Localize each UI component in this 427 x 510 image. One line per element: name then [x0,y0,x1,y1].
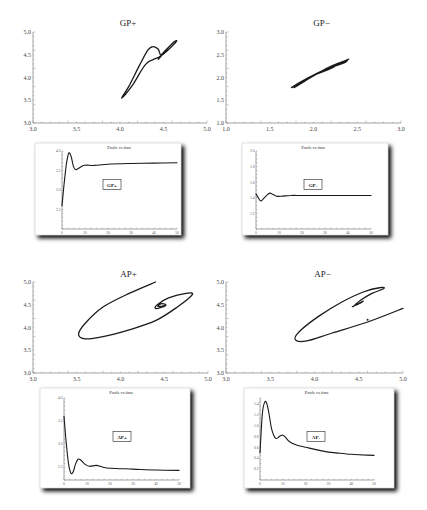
annotation-label: AP+ [117,435,127,440]
x-tick-label: 5.0 [204,376,212,382]
ap-plus-time-chart: 010203040502.53.03.54.0Pools vs timeAP+ [40,388,190,488]
series-line [79,282,193,339]
gp-plus-time-chart: 010203040502.53.03.54.0Pools vs timeGP+ [35,143,181,235]
x-tick-label: 40 [346,231,350,235]
y-tick-label: 3.0 [217,29,225,35]
x-tick-label: 0 [259,482,261,486]
x-tick-label: 30 [131,482,135,486]
y-tick-label: 4.0 [217,325,225,331]
y-tick-label: 4.0 [24,325,32,331]
x-tick-label: 30 [323,231,327,235]
x-tick-label: 4.5 [355,376,363,382]
chart-title: AP+ [120,269,137,279]
y-tick-label: 3.0 [58,442,63,446]
ap-minus-phase-chart: 3.03.54.04.55.03.03.54.04.55.0AP− [217,269,407,382]
y-tick-label: 5.0 [24,279,32,285]
y-tick-label: 4.5 [24,52,32,58]
x-tick-label: 3.0 [29,126,37,132]
y-tick-label: 1.2 [250,212,255,216]
y-tick-label: 3.0 [217,370,225,376]
x-tick-label: 2.0 [310,126,318,132]
chart-title: Pools vs time [305,390,329,395]
chart-title: GP+ [120,18,137,28]
x-tick-label: 20 [304,482,308,486]
y-tick-label: 2.5 [58,465,63,469]
y-tick-label: 4.0 [24,75,32,81]
y-tick-label: 5.0 [217,279,225,285]
y-tick-label: 3.5 [217,347,225,353]
gp-minus-time-chart: 010203040501.21.41.61.82.0Pools vs timeG… [242,143,388,235]
x-tick-label: 2.5 [354,126,362,132]
y-tick-label: 3.0 [24,370,32,376]
x-tick-label: 0 [255,231,257,235]
chart-title: Pools vs time [109,390,133,395]
y-tick-label: 3.0 [24,120,32,126]
series-line [291,59,348,87]
series-line [122,41,177,98]
y-tick-label: 2.0 [217,75,225,81]
x-tick-label: 10 [85,482,89,486]
chart-title: Pools vs time [107,145,131,150]
x-tick-label: 4.0 [117,376,125,382]
x-tick-label: 40 [152,231,156,235]
y-tick-label: 1.4 [250,196,255,200]
ap-minus-time-chart: 010203040500.20.40.60.81.01.21.4Pools vs… [244,388,394,488]
y-tick-label: 2.5 [56,208,61,212]
y-tick-label: 3.5 [24,347,32,353]
y-tick-label: 2.5 [217,52,225,58]
figure-canvas: 3.03.54.04.55.03.03.54.04.55.0GP+1.01.52… [0,0,427,510]
y-tick-label: 0.4 [254,456,259,460]
annotation-label: GP+ [107,183,117,188]
y-tick-label: 1.2 [254,413,259,417]
y-tick-label: 3.5 [24,97,32,103]
y-tick-label: 2.0 [250,149,255,153]
y-tick-label: 0.6 [254,446,259,450]
x-tick-label: 10 [83,231,87,235]
x-tick-label: 50 [372,482,376,486]
y-tick-label: 1.5 [217,97,225,103]
x-tick-label: 4.0 [311,376,319,382]
x-tick-label: 0 [61,231,63,235]
x-tick-label: 3.5 [73,376,81,382]
y-tick-label: 3.5 [58,419,63,423]
x-tick-label: 4.0 [116,126,124,132]
chart-title: AP− [314,269,331,279]
x-tick-label: 5.0 [399,376,407,382]
y-tick-label: 1.8 [250,165,255,169]
y-tick-label: 5.0 [24,29,32,35]
x-tick-label: 10 [277,231,281,235]
x-tick-label: 4.5 [161,376,169,382]
x-tick-label: 3.5 [267,376,275,382]
series-line [295,287,403,341]
y-tick-label: 0.2 [254,467,259,471]
x-tick-label: 3.0 [29,376,37,382]
x-tick-label: 40 [349,482,353,486]
x-tick-label: 10 [281,482,285,486]
x-tick-label: 30 [129,231,133,235]
x-tick-label: 5.0 [203,126,211,132]
x-tick-label: 1.5 [266,126,274,132]
x-tick-label: 4.5 [160,126,168,132]
x-tick-label: 40 [154,482,158,486]
chart-title: GP− [313,18,330,28]
y-tick-label: 1.4 [254,402,259,406]
x-tick-label: 3.5 [73,126,81,132]
x-tick-label: 20 [108,482,112,486]
y-tick-label: 3.5 [56,169,61,173]
x-tick-label: 3.0 [397,126,405,132]
annotation-label: AP- [312,435,321,440]
x-tick-label: 0 [63,482,65,486]
y-tick-label: 0.8 [254,435,259,439]
marker-point [367,319,369,321]
y-tick-label: 4.5 [217,302,225,308]
ap-plus-phase-chart: 3.03.54.04.55.03.03.54.04.55.0AP+ [24,269,212,382]
y-tick-label: 1.0 [254,424,259,428]
y-tick-label: 4.0 [58,396,63,400]
y-tick-label: 4.5 [24,302,32,308]
gp-minus-phase-chart: 1.01.52.02.53.01.01.52.02.53.0GP− [217,18,405,132]
chart-title: Pools vs time [301,145,325,150]
y-tick-label: 4.0 [56,149,61,153]
x-tick-label: 3.0 [222,376,230,382]
annotation-label: GP- [309,183,318,188]
x-tick-label: 1.0 [222,126,230,132]
